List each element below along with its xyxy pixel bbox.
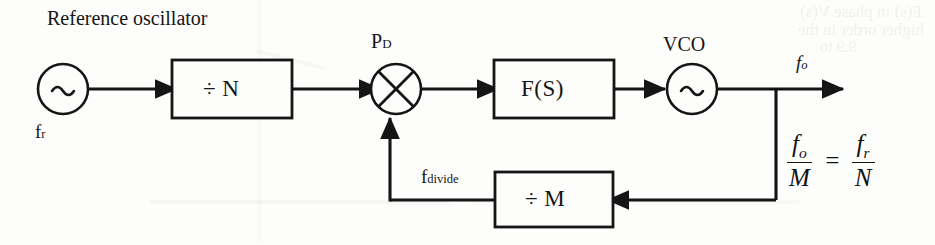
feedback-frequency-label: fdivide: [421, 167, 459, 186]
equation-left-numerator-subscript: o: [799, 144, 807, 161]
divide-m-label: ÷ M: [525, 187, 565, 210]
equation-right-numerator-symbol: f: [857, 130, 864, 157]
vco-label: VCO: [663, 34, 705, 54]
equation-left-numerator-symbol: f: [792, 130, 799, 157]
equation-left-numerator: fo: [787, 131, 812, 163]
phase-detector-label: PD: [371, 31, 392, 51]
equation-right-fraction: fr N: [850, 131, 877, 190]
pll-block-diagram-figure: F(s) in phase V(s) higher order in the 9…: [0, 0, 935, 245]
equation-operator: =: [815, 147, 850, 175]
reference-frequency-label: fr: [35, 122, 46, 141]
feedback-frequency-subscript: divide: [427, 172, 458, 186]
equation-right-numerator: fr: [852, 131, 875, 163]
loop-filter-label: F(S): [521, 77, 564, 100]
figure-title: Reference oscillator: [47, 8, 207, 28]
phase-detector-symbol: P: [371, 30, 382, 52]
equation-left-denominator: M: [784, 163, 815, 191]
equation-right-numerator-subscript: r: [864, 144, 870, 161]
output-frequency-subscript: o: [801, 58, 807, 72]
reference-frequency-subscript: r: [41, 127, 45, 141]
transfer-equation: fo M = fr N: [784, 131, 876, 190]
diagram-canvas: [0, 0, 935, 245]
divide-n-label: ÷ N: [203, 77, 239, 100]
output-frequency-label: fo: [796, 53, 808, 72]
equation-right-denominator: N: [850, 163, 877, 191]
phase-detector-subscript: D: [382, 36, 391, 51]
equation-left-fraction: fo M: [784, 131, 815, 190]
